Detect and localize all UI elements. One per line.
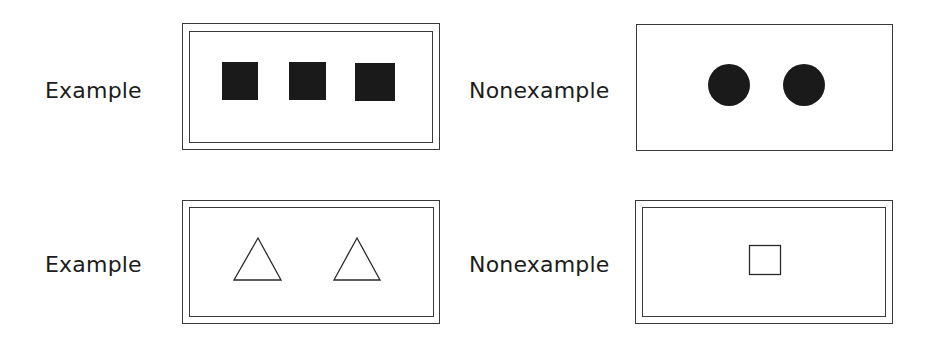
panel-label-top-right: Nonexample <box>469 78 610 104</box>
double-frame-bottom-right <box>635 200 893 324</box>
double-frame-bottom-left <box>182 200 440 324</box>
panel-label-top-left: Example <box>45 78 142 104</box>
panel-label-bottom-right: Nonexample <box>469 252 610 278</box>
single-frame-top-right <box>636 24 893 151</box>
inner-frame-bottom-right <box>642 207 886 317</box>
inner-frame-top-left <box>189 31 433 143</box>
panel-label-bottom-left: Example <box>45 252 142 278</box>
double-frame-top-left <box>182 23 440 150</box>
inner-frame-bottom-left <box>189 207 434 317</box>
